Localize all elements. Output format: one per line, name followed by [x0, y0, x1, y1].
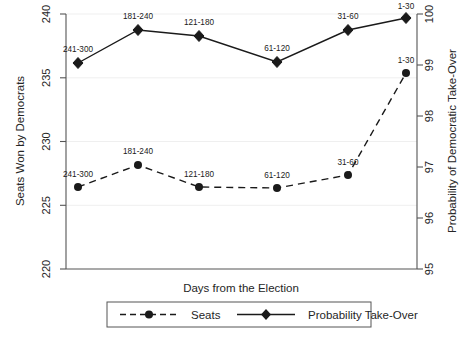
y-axis-title: Seats Won by Democrats	[14, 76, 26, 206]
point-label-prob-0: 241-300	[63, 45, 93, 54]
data-point-diamond	[194, 31, 204, 42]
right-tick-label-96: 96	[423, 212, 435, 224]
point-label-prob-5: 1-30	[398, 2, 415, 11]
data-point-diamond	[133, 25, 143, 36]
data-point-circle	[195, 183, 203, 191]
point-label-prob-2: 121-180	[184, 18, 214, 27]
gridlines	[66, 14, 417, 205]
legend-label-seats: Seats	[191, 309, 221, 321]
legend-marker-circle	[145, 311, 153, 319]
right-tick-label-97: 97	[423, 161, 435, 173]
data-point-circle	[134, 161, 142, 169]
chart-svg: 240 235 230 225 220 100 99 98 97 96 95 S…	[0, 0, 466, 342]
data-point-diamond	[343, 25, 353, 36]
left-tick-label-230: 230	[40, 132, 52, 150]
point-label-seats-1: 181-240	[123, 147, 153, 156]
point-label-seats-5: 1-30	[398, 56, 415, 65]
left-tick-label-240: 240	[40, 5, 52, 23]
point-label-prob-1: 181-240	[123, 12, 153, 21]
data-point-circle	[74, 183, 82, 191]
right-axis-ticks	[417, 14, 423, 269]
left-tick-label-235: 235	[40, 69, 52, 87]
right-tick-label-100: 100	[423, 5, 435, 23]
right-tick-label-98: 98	[423, 110, 435, 122]
data-point-circle	[273, 184, 281, 192]
left-tick-label-220: 220	[40, 260, 52, 278]
data-point-diamond	[272, 57, 282, 68]
point-label-seats-3: 61-120	[264, 171, 290, 180]
x-axis-title: Days from the Election	[183, 282, 299, 294]
series-seats: 241-300 181-240 121-180 61-120 31-60 1-3…	[63, 56, 415, 192]
y2-axis-title: Probability of Democratic Take-Over	[446, 49, 458, 233]
chart-container: 240 235 230 225 220 100 99 98 97 96 95 S…	[0, 0, 466, 342]
legend-label-probability: Probability Take-Over	[308, 309, 418, 321]
point-label-prob-3: 61-120	[264, 44, 290, 53]
point-label-seats-0: 241-300	[63, 170, 93, 179]
left-tick-label-225: 225	[40, 196, 52, 214]
point-label-seats-2: 121-180	[184, 170, 214, 179]
right-tick-label-95: 95	[423, 263, 435, 275]
data-point-diamond	[73, 58, 83, 69]
data-point-circle	[344, 171, 352, 179]
point-label-seats-4: 31-60	[338, 158, 359, 167]
right-tick-label-99: 99	[423, 59, 435, 71]
data-point-circle	[402, 69, 410, 77]
series-probability-take-over: 241-300 181-240 121-180 61-120 31-60 1-3…	[63, 2, 415, 69]
chart-legend: Seats Probability Take-Over	[107, 302, 418, 327]
point-label-prob-4: 31-60	[338, 12, 359, 21]
